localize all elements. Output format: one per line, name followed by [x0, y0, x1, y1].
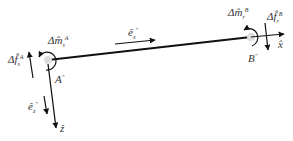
force-b-arrow-icon	[265, 23, 268, 50]
moment-a-label: Δm̂sA	[47, 34, 69, 48]
force-a-label: Δf̂sA	[7, 53, 24, 67]
x-axis-arrow-icon	[251, 34, 284, 37]
force-a-arrow-icon	[29, 52, 33, 78]
ex-arrow-icon	[115, 40, 155, 44]
x-axis-label: x̂	[277, 38, 283, 50]
force-b-label: Δf̂rB	[266, 10, 283, 24]
ez-arrow-icon	[44, 96, 47, 114]
z-axis-label: ẑ	[59, 122, 65, 134]
node-a-label: A"	[54, 73, 65, 85]
node-a	[44, 56, 52, 64]
ez-label: êz"	[28, 100, 38, 114]
node-b-label: B"	[248, 52, 258, 64]
beam-diagram: Δm̂sA Δf̂sA A" êz" ẑ êx" Δm̂rB Δf̂rB B" …	[0, 0, 293, 141]
moment-b-label: Δm̂rB	[227, 6, 249, 20]
ex-label: êx"	[128, 26, 139, 40]
